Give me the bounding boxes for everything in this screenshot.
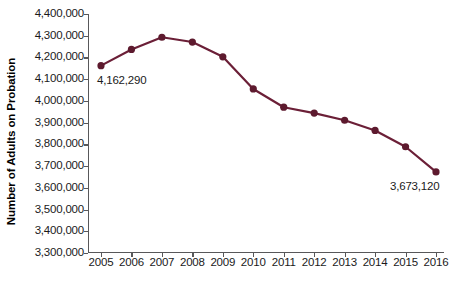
y-axis-tick-mark	[84, 210, 88, 211]
y-axis-tick-mark	[84, 188, 88, 189]
y-axis-tick-mark	[84, 253, 88, 254]
y-axis-tick-label: 3,700,000	[14, 160, 84, 172]
chart-container: Number of Adults on Probation 4,400,0004…	[0, 0, 463, 283]
y-axis-tick-mark	[84, 57, 88, 58]
plot-area	[88, 14, 463, 253]
y-axis-tick-label: 4,300,000	[14, 30, 84, 42]
last-point-value: 3,673,120	[390, 180, 439, 192]
x-axis-tick-label: 2016	[416, 256, 456, 268]
y-axis-tick-label: 4,400,000	[14, 8, 84, 20]
y-axis-tick-label: 3,300,000	[14, 247, 84, 259]
x-axis-tick-labels: 2005200620072008200920102011201220132014…	[88, 256, 463, 276]
first-point-value: 4,162,290	[97, 74, 146, 86]
y-axis-tick-mark	[84, 14, 88, 15]
y-axis-tick-label: 3,900,000	[14, 117, 84, 129]
y-axis-tick-label: 4,000,000	[14, 95, 84, 107]
y-axis-tick-label: 3,500,000	[14, 204, 84, 216]
y-axis-tick-mark	[84, 101, 88, 102]
y-axis-tick-mark	[84, 123, 88, 124]
y-axis-tick-label: 4,200,000	[14, 51, 84, 63]
y-axis-tick-label: 3,400,000	[14, 225, 84, 237]
y-axis-tick-mark	[84, 231, 88, 232]
y-axis-tick-mark	[84, 166, 88, 167]
y-axis-tick-mark	[84, 36, 88, 37]
y-axis-tick-label: 4,100,000	[14, 73, 84, 85]
y-axis-tick-mark	[84, 144, 88, 145]
y-axis-tick-mark	[84, 79, 88, 80]
y-axis-tick-label: 3,800,000	[14, 138, 84, 150]
y-axis-tick-label: 3,600,000	[14, 182, 84, 194]
y-axis-line	[88, 14, 89, 253]
y-axis-tick-labels: 4,400,0004,300,0004,200,0004,100,0004,00…	[12, 0, 84, 283]
x-axis-line	[88, 252, 444, 253]
